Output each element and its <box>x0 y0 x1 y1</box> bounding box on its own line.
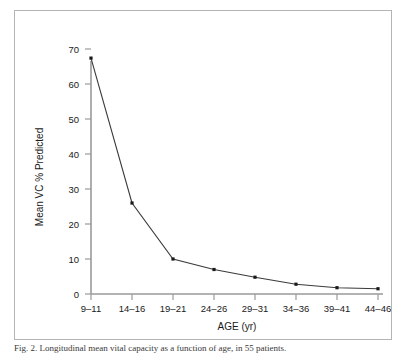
x-axis-title: AGE (yr) <box>218 321 257 332</box>
y-tick-label-20: 20 <box>68 219 79 230</box>
y-tick-label-50: 50 <box>68 114 79 125</box>
x-tick-label-39-41: 39–41 <box>324 303 350 314</box>
y-tick-label-40: 40 <box>68 149 79 160</box>
x-tick-label-14-16: 14–16 <box>119 303 145 314</box>
y-tick-marks <box>85 49 91 294</box>
y-tick-label-0: 0 <box>74 289 79 300</box>
x-tick-label-9-11: 9–11 <box>81 303 101 314</box>
line-chart: 0 10 20 30 40 50 60 70 Mean VC % Predict… <box>15 11 391 339</box>
figure-frame: 0 10 20 30 40 50 60 70 Mean VC % Predict… <box>14 10 392 340</box>
y-tick-label-70: 70 <box>68 44 79 55</box>
y-axis-title: Mean VC % Predicted <box>34 128 45 226</box>
x-tick-label-24-26: 24–26 <box>201 303 227 314</box>
x-tick-label-44-46: 44–46 <box>365 303 391 314</box>
figure-root: 0 10 20 30 40 50 60 70 Mean VC % Predict… <box>0 0 408 354</box>
data-point-7 <box>376 287 379 290</box>
x-tick-label-19-21: 19–21 <box>160 303 186 314</box>
data-point-6 <box>335 286 338 289</box>
data-point-5 <box>294 283 297 286</box>
y-tick-label-10: 10 <box>68 254 79 265</box>
data-point-0 <box>89 57 92 60</box>
figure-caption-text: Fig. 2. Longitudinal mean vital capacity… <box>14 344 394 353</box>
x-tick-label-29-31: 29–31 <box>242 303 268 314</box>
data-point-4 <box>253 276 256 279</box>
x-tick-marks <box>91 294 378 300</box>
x-tick-label-34-36: 34–36 <box>283 303 309 314</box>
data-point-2 <box>171 257 174 260</box>
figure-caption: Fig. 2. Longitudinal mean vital capacity… <box>14 344 394 354</box>
data-series-line <box>91 58 378 289</box>
data-point-1 <box>130 201 133 204</box>
y-tick-label-30: 30 <box>68 184 79 195</box>
data-point-3 <box>212 268 215 271</box>
data-point-markers <box>89 57 379 291</box>
y-tick-label-60: 60 <box>68 79 79 90</box>
